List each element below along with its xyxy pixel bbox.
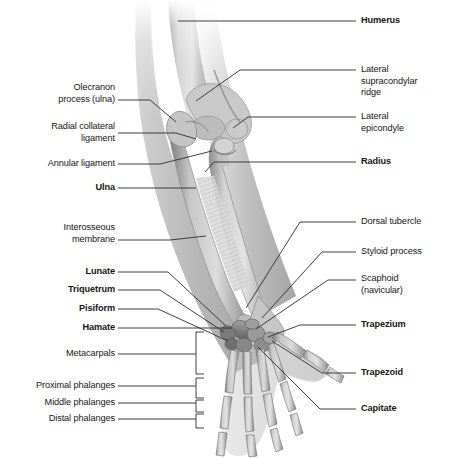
label-dorsal-tubercle: Dorsal tubercle <box>361 216 421 228</box>
label-distal-phalanges: Distal phalanges <box>0 413 115 425</box>
label-capitate: Capitate <box>361 403 396 415</box>
figure-canvas: Humerus Lateral supracondylar ridge Late… <box>0 0 455 458</box>
proximal-phalanges-bracket <box>196 378 204 398</box>
label-lateral-epicondyle: Lateral epicondyle <box>361 111 404 134</box>
label-proximal-phalanges: Proximal phalanges <box>0 380 115 392</box>
label-humerus: Humerus <box>361 15 400 27</box>
label-metacarpals: Metacarpals <box>0 348 115 360</box>
metacarpals-bracket <box>196 332 204 374</box>
label-ulna: Ulna <box>0 182 115 194</box>
label-middle-phalanges: Middle phalanges <box>0 397 115 409</box>
label-annular-ligament: Annular ligament <box>0 158 115 170</box>
label-olecranon-process-ulna: Olecranon process (ulna) <box>0 82 115 105</box>
label-hamate: Hamate <box>0 322 115 334</box>
label-pisiform: Pisiform <box>0 303 115 315</box>
middle-phalanges-bracket <box>196 400 204 412</box>
label-radius: Radius <box>361 156 391 168</box>
label-triquetrum: Triquetrum <box>0 284 115 296</box>
distal-phalanges-bracket <box>196 414 204 428</box>
label-trapezoid: Trapezoid <box>361 367 403 379</box>
label-radial-collateral-ligament: Radial collateral ligament <box>0 121 115 144</box>
label-trapezium: Trapezium <box>361 319 406 331</box>
label-styloid-process: Styloid process <box>361 246 422 258</box>
label-lunate: Lunate <box>0 266 115 278</box>
label-lateral-supracondylar-ridge: Lateral supracondylar ridge <box>361 64 417 99</box>
label-interosseous-membrane: Interosseous membrane <box>0 222 115 245</box>
label-scaphoid-navicular: Scaphoid (navicular) <box>361 273 403 296</box>
group-brackets <box>196 332 204 428</box>
